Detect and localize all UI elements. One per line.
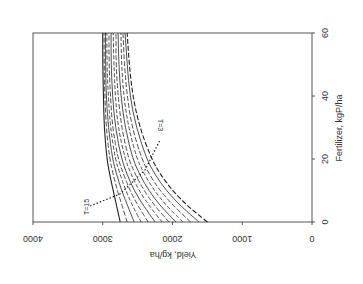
y-tick-label: 20: [320, 154, 330, 164]
plot-frame: [33, 33, 312, 222]
y-tick-label: 60: [320, 28, 330, 38]
axis-ticks: 010002000300040000204060: [23, 28, 330, 244]
x-tick-label: 4000: [23, 234, 43, 244]
annotation-t15: T=15: [83, 199, 90, 215]
axis-labels: Yield, kg/ha Fertilizer, kgP/ha T=3 T=15: [83, 94, 344, 260]
series-line: [109, 33, 148, 222]
x-tick-label: 3000: [93, 234, 113, 244]
series-line: [111, 33, 155, 222]
x-axis-label: Yield, kg/ha: [150, 250, 197, 260]
y-tick-label: 0: [320, 219, 330, 224]
y-axis-label: Fertilizer, kgP/ha: [334, 94, 344, 161]
chart-canvas: 010002000300040000204060 Yield, kg/ha Fe…: [0, 0, 363, 284]
curves: [90, 33, 207, 222]
y-tick-label: 40: [320, 91, 330, 101]
series-line: [127, 33, 207, 222]
trend-arrow: [90, 140, 160, 206]
series-line: [121, 33, 183, 222]
x-tick-label: 1000: [232, 234, 252, 244]
yield-fertilizer-chart: 010002000300040000204060 Yield, kg/ha Fe…: [0, 0, 363, 284]
annotation-t3: T=3: [157, 119, 164, 131]
x-tick-label: 0: [309, 234, 314, 244]
x-tick-label: 2000: [162, 234, 182, 244]
